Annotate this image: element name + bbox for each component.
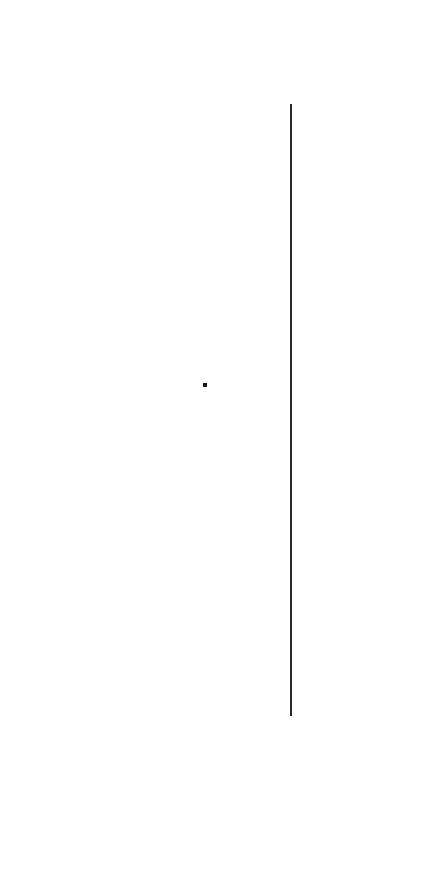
dot-marker [203,383,207,387]
vertical-divider-line [290,104,292,716]
